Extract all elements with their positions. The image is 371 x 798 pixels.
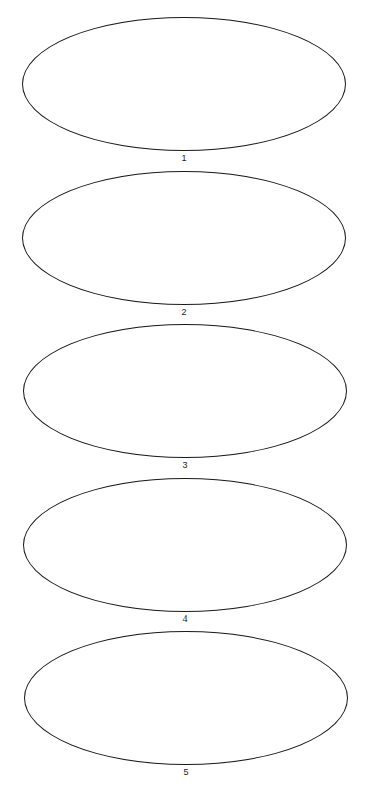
ellipse-label-3: 3 xyxy=(165,460,205,470)
ellipse-1 xyxy=(22,17,346,151)
ellipse-label-2: 2 xyxy=(164,307,204,317)
ellipse-label-1: 1 xyxy=(164,153,204,163)
ellipse-3 xyxy=(23,324,347,458)
ellipse-4 xyxy=(23,478,347,612)
ellipse-label-4: 4 xyxy=(165,614,205,624)
diagram-canvas: 1 2 3 4 5 xyxy=(0,0,371,798)
ellipse-label-5: 5 xyxy=(166,767,206,777)
ellipse-2 xyxy=(22,171,346,305)
ellipse-5 xyxy=(24,631,348,765)
